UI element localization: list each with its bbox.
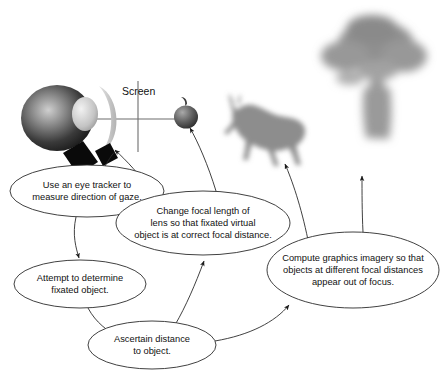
- figure-canvas: Screen: [0, 0, 448, 384]
- edge-compute-to-tree: [362, 176, 363, 232]
- edge-focal-to-apple: [190, 128, 216, 191]
- edge-tracker-to-fixated: [74, 217, 79, 258]
- tree-canopy-lower-left: [336, 71, 364, 85]
- tree-canopy-lower: [358, 60, 398, 80]
- apple: [174, 97, 198, 129]
- tree-canopy-top: [346, 15, 398, 43]
- deer-ear-left: [229, 94, 234, 104]
- node-line: objects at different focal distances: [283, 265, 423, 275]
- node-line: Compute graphics imagery so that: [282, 253, 424, 263]
- eye: [21, 85, 98, 151]
- diagram-svg: Screen: [0, 0, 448, 384]
- deer: [224, 94, 305, 166]
- node-line: Ascertain distance: [114, 334, 190, 344]
- node-focal-length[interactable]: Change focal length of lens so that fixa…: [116, 191, 290, 255]
- screen-label: Screen: [122, 85, 155, 97]
- node-line: to object.: [133, 346, 171, 356]
- node-line: object is at correct focal distance.: [134, 230, 271, 240]
- camera-lens-barrel: [95, 143, 118, 166]
- node-line: Attempt to determine: [37, 273, 123, 283]
- tree: [321, 15, 427, 139]
- cornea: [72, 97, 98, 131]
- apple-body: [174, 106, 198, 129]
- node-line: measure direction of gaze.: [32, 192, 142, 202]
- node-line: lens so that fixated virtual: [151, 218, 256, 228]
- node-ellipse[interactable]: [14, 260, 146, 308]
- deer-body: [224, 103, 305, 166]
- node-line: Change focal length of: [156, 206, 249, 216]
- node-line: Use an eye tracker to: [43, 180, 131, 190]
- node-fixated-object[interactable]: Attempt to determine fixated object.: [14, 260, 146, 308]
- deer-ear-right: [238, 95, 241, 105]
- node-compute-graphics[interactable]: Compute graphics imagery so that objects…: [267, 232, 439, 308]
- node-line: appear out of focus.: [312, 277, 394, 287]
- edge-ascertain-to-focal: [175, 261, 204, 325]
- edge-ascertain-to-compute: [215, 305, 289, 341]
- apple-stem: [181, 97, 187, 106]
- node-ascertain-distance[interactable]: Ascertain distance to object.: [88, 321, 216, 369]
- node-ellipse[interactable]: [88, 321, 216, 369]
- tree-trunk-base: [363, 88, 391, 139]
- node-line: fixated object.: [51, 285, 108, 295]
